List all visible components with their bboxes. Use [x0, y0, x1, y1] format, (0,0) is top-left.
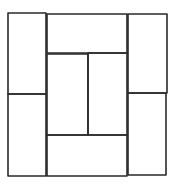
rectangle-tiling-diagram	[0, 0, 177, 191]
tile-right-bottom	[128, 93, 166, 175]
tile-left-top	[8, 13, 46, 94]
tile-top-center	[47, 14, 127, 53]
tile-bottom-center	[47, 135, 127, 176]
tile-right-top	[128, 14, 167, 93]
tile-center-right	[88, 53, 127, 135]
tile-left-bottom	[8, 94, 46, 176]
tile-center-left	[47, 54, 88, 135]
tiles-group	[8, 13, 167, 176]
